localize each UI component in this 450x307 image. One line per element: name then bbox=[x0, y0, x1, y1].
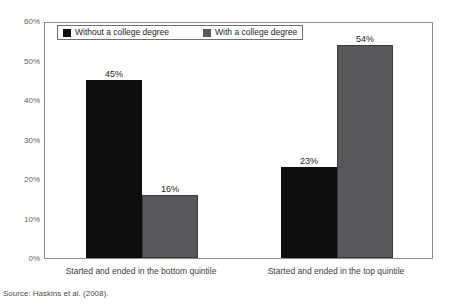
y-axis: 60% 50% 40% 30% 20% 10% 0% bbox=[0, 22, 40, 259]
plot-area: 45% 16% 23% 54% bbox=[44, 22, 433, 259]
y-tick-label: 10% bbox=[0, 216, 40, 224]
y-tick-label: 0% bbox=[0, 255, 40, 263]
bar-with-degree-bottom-quintile bbox=[142, 195, 198, 258]
chart-legend: Without a college degree With a college … bbox=[57, 25, 303, 40]
legend-swatch-icon bbox=[203, 29, 211, 37]
source-note: Source: Haskins et al. (2008). bbox=[3, 289, 108, 298]
bar-without-degree-top-quintile bbox=[281, 167, 337, 258]
bar-value-label: 16% bbox=[142, 184, 198, 194]
chart-title-fragment bbox=[55, 0, 355, 3]
legend-item-without-degree: Without a college degree bbox=[63, 28, 169, 37]
y-tick-label: 30% bbox=[0, 137, 40, 145]
x-category-label-top-quintile: Started and ended in the top quintile bbox=[239, 266, 433, 276]
bar-with-degree-top-quintile bbox=[337, 45, 393, 258]
x-category-label-bottom-quintile: Started and ended in the bottom quintile bbox=[44, 266, 238, 276]
y-tick-label: 20% bbox=[0, 176, 40, 184]
y-tick-label: 40% bbox=[0, 97, 40, 105]
bar-value-label: 23% bbox=[281, 156, 337, 166]
bar-without-degree-bottom-quintile bbox=[86, 80, 142, 258]
y-tick-label: 60% bbox=[0, 18, 40, 26]
legend-label: Without a college degree bbox=[75, 28, 169, 37]
bar-value-label: 54% bbox=[337, 34, 393, 44]
bar-value-label: 45% bbox=[86, 69, 142, 79]
y-tick-label: 50% bbox=[0, 58, 40, 66]
legend-swatch-icon bbox=[63, 29, 71, 37]
legend-item-with-degree: With a college degree bbox=[203, 28, 297, 37]
legend-label: With a college degree bbox=[215, 28, 297, 37]
